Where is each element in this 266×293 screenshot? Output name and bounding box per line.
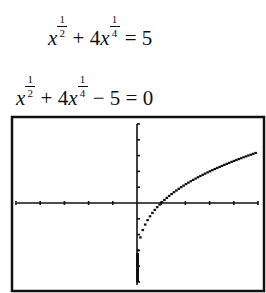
- calculator-graph: [0, 0, 266, 293]
- function-curve: [136, 152, 257, 282]
